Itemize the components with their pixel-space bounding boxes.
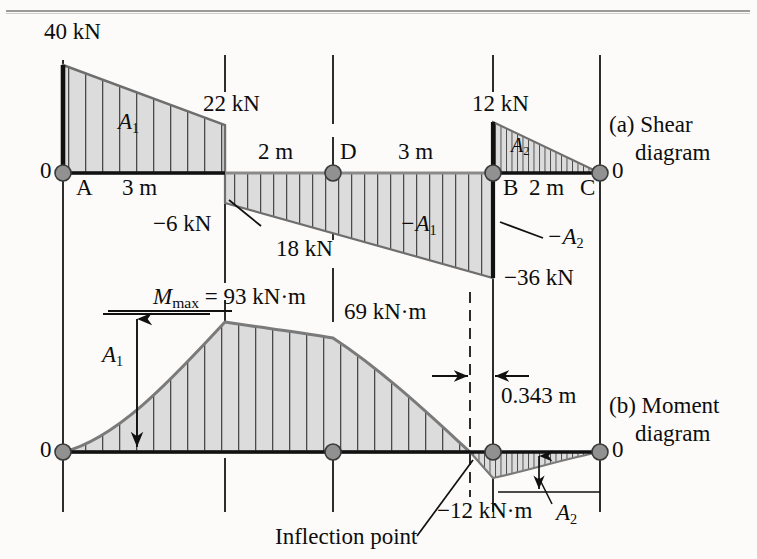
moment-node-b — [485, 444, 501, 460]
shear-moment-figure: 40 kN 22 kN 12 kN 0 0 A1 −A1 A2 −A2 −6 k… — [0, 0, 757, 559]
moment-area-a1-letter: A — [102, 342, 116, 367]
shear-node-a — [55, 165, 71, 181]
station-label-c: C — [580, 176, 595, 201]
shear-area-a1 — [63, 65, 225, 173]
moment-area-a2-label: A2 — [556, 501, 577, 527]
station-label-d: D — [340, 140, 357, 165]
moment-node-a — [55, 444, 71, 460]
shear-area-neg-a2-label: −A2 — [547, 225, 584, 251]
caption-shear-diagram: (a) Shear diagram — [609, 111, 710, 167]
moment-node-d — [325, 444, 341, 460]
shear-peak-label: 40 kN — [44, 20, 101, 45]
span-label-db: 3 m — [398, 140, 433, 165]
moment-area-a2-subscript: 2 — [570, 511, 577, 527]
shear-area-a1-label: A1 — [118, 110, 139, 136]
station-label-a: A — [76, 176, 93, 201]
moment-value-d: 69 kN·m — [344, 300, 426, 325]
shear-area-a2 — [493, 122, 600, 173]
shear-zero-left: 0 — [40, 159, 52, 184]
moment-offset-label: 0.343 m — [501, 384, 576, 409]
moment-area-a2-letter: A — [556, 500, 570, 525]
shear-area-neg-a1 — [225, 173, 493, 278]
shear-area-neg-a1-letter: −A — [400, 211, 430, 236]
inflection-point-label: Inflection point — [275, 525, 417, 550]
leader-neg-a2 — [500, 222, 543, 238]
shear-area-a1-letter: A — [118, 109, 132, 134]
shear-area-neg-a2-letter: −A — [547, 224, 577, 249]
shear-area-a2-letter: A — [511, 134, 523, 156]
leader-moment-a2 — [539, 478, 552, 504]
shear-jump-label: 12 kN — [472, 92, 529, 117]
moment-area-a1-label: A1 — [102, 343, 123, 369]
caption-moment-line2: diagram — [609, 420, 720, 448]
shear-area-a2-subscript: 2 — [523, 144, 529, 158]
shear-area-a1-subscript: 1 — [132, 120, 139, 136]
moment-node-c — [592, 444, 608, 460]
span-label-ad: 3 m — [122, 176, 157, 201]
caption-moment-line1: (b) Moment — [609, 392, 720, 420]
station-label-b: B — [503, 176, 518, 201]
shear-drop-label: 22 kN — [203, 92, 260, 117]
caption-moment-diagram: (b) Moment diagram — [609, 392, 720, 448]
diagram-canvas — [0, 0, 757, 559]
caption-shear-line1: (a) Shear — [609, 111, 710, 139]
shear-node-d — [325, 165, 341, 181]
span-label-bc: 2 m — [529, 176, 564, 201]
shear-area-neg-a1-label: −A1 — [400, 212, 437, 238]
moment-value-b: −12 kN·m — [437, 499, 532, 524]
moment-area-a1-subscript: 1 — [116, 353, 123, 369]
shear-area-neg-a2-subscript: 2 — [577, 235, 584, 251]
shear-node-b — [485, 165, 501, 181]
page-top-rule — [6, 11, 750, 14]
shear-neg6-label: −6 kN — [153, 212, 211, 237]
caption-shear-line2: diagram — [609, 139, 710, 167]
shear-min-label: −36 kN — [504, 266, 574, 291]
shear-area-a2-label: A2 — [511, 135, 529, 159]
moment-mmax-value: = 93 kN·m — [199, 284, 306, 309]
span-label-d-mid: 2 m — [258, 140, 293, 165]
moment-mmax-symbol: M — [153, 284, 172, 309]
moment-mmax-subscript: max — [172, 294, 199, 311]
shear-area-neg-a1-subscript: 1 — [430, 222, 437, 238]
moment-zero-left: 0 — [40, 438, 52, 463]
shear-mid-label: 18 kN — [276, 237, 333, 262]
moment-mmax-label: Mmax = 93 kN·m — [153, 285, 306, 312]
moment-area-a1 — [63, 322, 470, 452]
